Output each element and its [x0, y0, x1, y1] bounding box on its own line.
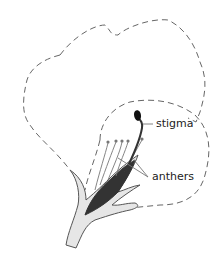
upper-petal-outline-left [24, 55, 70, 170]
anthers-leader-2 [134, 160, 148, 177]
inner-petal-outline [85, 140, 100, 190]
anthers-label: anthers [152, 171, 194, 182]
upper-petal-outline [60, 20, 205, 122]
stigma-label: stigma [156, 118, 194, 129]
stigma-shape [134, 110, 141, 121]
